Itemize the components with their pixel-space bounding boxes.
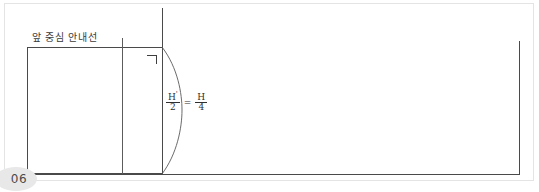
dimension-formula: H' 2 = H 4 [166,93,207,113]
right-vertical-line [519,41,520,175]
corner-angle-mark [147,55,157,64]
formula-right-fraction: H 4 [195,93,207,113]
top-guide-line [27,47,163,48]
body-rectangle [27,47,162,174]
center-vertical-line [162,8,163,175]
formula-left-denominator: 2 [170,103,176,112]
diagram-page: 앞 중심 안내선 H' 2 = H 4 06 [0,0,539,192]
formula-left-fraction: H' 2 [166,93,180,113]
formula-equals-sign: = [183,98,193,108]
baseline [27,174,520,175]
formula-prime-mark: ' [176,90,178,98]
formula-right-denominator: 4 [198,103,204,112]
guide-line-label: 앞 중심 안내선 [32,31,97,44]
formula-left-numerator-text: H [168,92,176,102]
page-number: 06 [5,172,27,186]
formula-right-numerator: H [195,93,207,103]
guide-tick-line [122,38,123,174]
page-number-badge: 06 [0,167,37,191]
formula-left-numerator: H' [166,93,180,103]
